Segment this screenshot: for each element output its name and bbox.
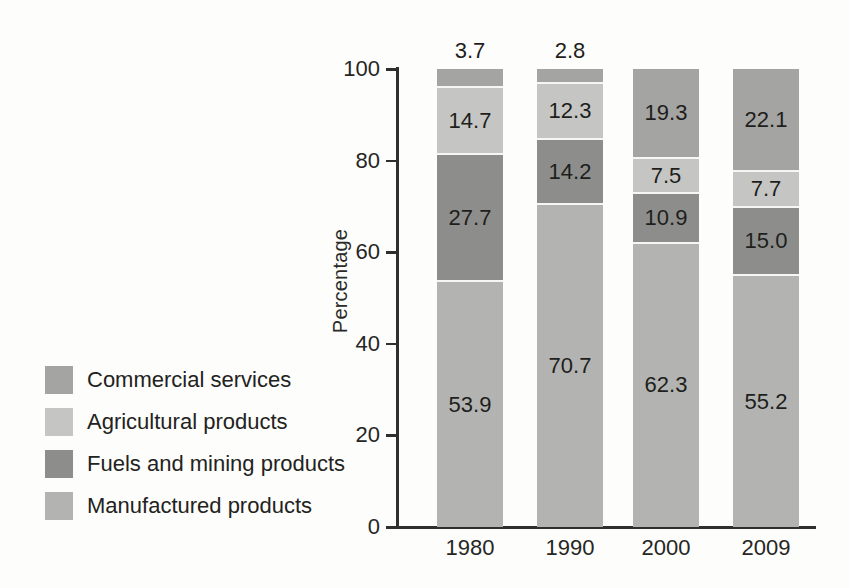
legend-item-agricultural-products: Agricultural products bbox=[45, 408, 345, 436]
segment-value-label: 15.0 bbox=[745, 228, 788, 254]
segment-manufactured-products-1980: 53.9 bbox=[437, 280, 503, 527]
y-tick-label: 100 bbox=[320, 56, 380, 82]
segment-value-label: 14.2 bbox=[549, 159, 592, 185]
y-tick bbox=[386, 68, 397, 71]
legend-swatch bbox=[45, 408, 73, 436]
segment-manufactured-products-1990: 70.7 bbox=[537, 203, 603, 527]
segment-manufactured-products-2009: 55.2 bbox=[733, 274, 799, 527]
segment-value-label: 53.9 bbox=[449, 392, 492, 418]
x-tick-label-2009: 2009 bbox=[706, 535, 826, 561]
segment-value-label: 7.5 bbox=[651, 163, 682, 189]
y-tick-label: 40 bbox=[320, 331, 380, 357]
y-tick-label: 80 bbox=[320, 148, 380, 174]
segment-value-label: 19.3 bbox=[645, 100, 688, 126]
segment-fuels-and-mining-products-2000: 10.9 bbox=[633, 192, 699, 242]
y-tick bbox=[386, 526, 397, 529]
segment-value-label: 55.2 bbox=[745, 389, 788, 415]
legend-label: Commercial services bbox=[87, 366, 291, 394]
segment-commercial-services-1980 bbox=[437, 69, 503, 86]
legend-label: Agricultural products bbox=[87, 408, 288, 436]
segment-agricultural-products-2000: 7.5 bbox=[633, 157, 699, 191]
y-tick bbox=[386, 160, 397, 163]
legend-swatch bbox=[45, 450, 73, 478]
y-tick bbox=[386, 434, 397, 437]
legend-swatch bbox=[45, 492, 73, 520]
bar-2009: 22.17.715.055.2 bbox=[733, 69, 799, 527]
segment-commercial-services-2000: 19.3 bbox=[633, 69, 699, 157]
segment-commercial-services-2009: 22.1 bbox=[733, 69, 799, 170]
legend-label: Fuels and mining products bbox=[87, 450, 345, 478]
y-tick bbox=[386, 251, 397, 254]
segment-value-label: 62.3 bbox=[645, 372, 688, 398]
legend-label: Manufactured products bbox=[87, 492, 312, 520]
legend-swatch bbox=[45, 366, 73, 394]
bar-1990: 2.812.314.270.7 bbox=[537, 69, 603, 527]
stacked-bar-chart: Percentage 3.714.727.753.92.812.314.270.… bbox=[0, 0, 850, 588]
legend: Commercial servicesAgricultural products… bbox=[45, 366, 345, 534]
legend-item-fuels-and-mining-products: Fuels and mining products bbox=[45, 450, 345, 478]
segment-value-label: 14.7 bbox=[449, 108, 492, 134]
bar-1980: 3.714.727.753.9 bbox=[437, 69, 503, 527]
segment-value-label: 22.1 bbox=[745, 107, 788, 133]
outside-value-label: 2.8 bbox=[527, 38, 613, 64]
segment-agricultural-products-2009: 7.7 bbox=[733, 170, 799, 205]
y-tick-label: 0 bbox=[320, 514, 380, 540]
segment-value-label: 7.7 bbox=[751, 176, 782, 202]
scanned-page: Percentage 3.714.727.753.92.812.314.270.… bbox=[0, 0, 850, 588]
segment-value-label: 12.3 bbox=[549, 98, 592, 124]
bar-2000: 19.37.510.962.3 bbox=[633, 69, 699, 527]
legend-item-commercial-services: Commercial services bbox=[45, 366, 345, 394]
segment-fuels-and-mining-products-2009: 15.0 bbox=[733, 206, 799, 275]
legend-item-manufactured-products: Manufactured products bbox=[45, 492, 345, 520]
outside-value-label: 3.7 bbox=[427, 38, 513, 64]
segment-commercial-services-1990 bbox=[537, 69, 603, 82]
segment-value-label: 70.7 bbox=[549, 353, 592, 379]
segment-value-label: 10.9 bbox=[645, 205, 688, 231]
y-tick-label: 20 bbox=[320, 422, 380, 448]
segment-agricultural-products-1990: 12.3 bbox=[537, 82, 603, 138]
segment-fuels-and-mining-products-1980: 27.7 bbox=[437, 153, 503, 280]
segment-value-label: 27.7 bbox=[449, 205, 492, 231]
y-tick-label: 60 bbox=[320, 239, 380, 265]
segment-agricultural-products-1980: 14.7 bbox=[437, 86, 503, 153]
plot-area: 3.714.727.753.92.812.314.270.719.37.510.… bbox=[397, 69, 815, 527]
segment-fuels-and-mining-products-1990: 14.2 bbox=[537, 138, 603, 203]
y-tick bbox=[386, 343, 397, 346]
segment-manufactured-products-2000: 62.3 bbox=[633, 242, 699, 527]
